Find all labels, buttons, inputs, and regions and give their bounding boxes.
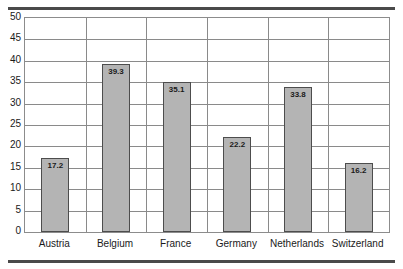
y-axis-tick-label: 10 bbox=[1, 183, 21, 193]
bottom-divider-rule bbox=[8, 260, 395, 263]
bar-slot: 33.8 bbox=[268, 18, 329, 232]
bar[interactable]: 17.2 bbox=[41, 158, 69, 232]
bar-value-label: 35.1 bbox=[164, 86, 190, 94]
y-axis-tick-label: 25 bbox=[1, 119, 21, 129]
bar-value-label: 22.2 bbox=[224, 141, 250, 149]
y-axis-tick-label: 5 bbox=[1, 205, 21, 215]
y-axis-tick-label: 40 bbox=[1, 55, 21, 65]
x-axis-tick-label: Switzerland bbox=[327, 238, 388, 250]
x-axis: AustriaBelgiumFranceGermanyNetherlandsSw… bbox=[24, 236, 390, 254]
bar-value-label: 16.2 bbox=[346, 167, 372, 175]
bar[interactable]: 16.2 bbox=[345, 163, 373, 232]
y-axis-tick-label: 0 bbox=[1, 226, 21, 236]
bar[interactable]: 33.8 bbox=[284, 87, 312, 232]
x-axis-tick-label: Netherlands bbox=[267, 238, 328, 250]
bar-slot: 39.3 bbox=[86, 18, 147, 232]
bar-slot: 35.1 bbox=[146, 18, 207, 232]
y-axis-tick-label: 15 bbox=[1, 162, 21, 172]
bar-slot: 22.2 bbox=[207, 18, 268, 232]
bar-slot: 16.2 bbox=[328, 18, 389, 232]
x-axis-tick-label: Germany bbox=[206, 238, 267, 250]
bar[interactable]: 22.2 bbox=[223, 137, 251, 232]
y-axis-tick-label: 30 bbox=[1, 98, 21, 108]
x-axis-tick-label: Austria bbox=[24, 238, 85, 250]
y-axis-tick-label: 50 bbox=[1, 12, 21, 22]
bar[interactable]: 39.3 bbox=[102, 64, 130, 232]
bar[interactable]: 35.1 bbox=[163, 82, 191, 232]
y-axis-tick-label: 20 bbox=[1, 140, 21, 150]
top-divider-rule bbox=[8, 7, 395, 10]
bar-value-label: 17.2 bbox=[42, 162, 68, 170]
y-axis: 50454035302520151050 bbox=[0, 17, 21, 233]
bar-value-label: 39.3 bbox=[103, 68, 129, 76]
bar-value-label: 33.8 bbox=[285, 91, 311, 99]
y-axis-tick-label: 45 bbox=[1, 33, 21, 43]
bar-slot: 17.2 bbox=[25, 18, 86, 232]
bar-chart-figure: 50454035302520151050 17.239.335.122.233.… bbox=[0, 0, 403, 269]
x-axis-tick-label: France bbox=[145, 238, 206, 250]
plot-area: 17.239.335.122.233.816.2 bbox=[24, 17, 390, 233]
x-axis-tick-label: Belgium bbox=[85, 238, 146, 250]
y-axis-tick-label: 35 bbox=[1, 76, 21, 86]
